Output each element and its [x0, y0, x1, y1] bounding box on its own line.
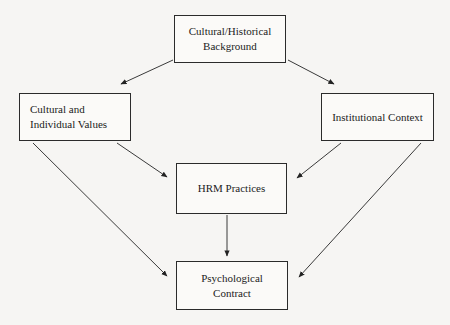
edge-background-to-institutional	[288, 60, 334, 84]
node-psychological-contract: Psychological Contract	[176, 261, 288, 310]
edge-institutional-to-contract	[299, 143, 421, 277]
edge-background-to-values	[121, 60, 173, 84]
node-label: HRM Practices	[177, 181, 286, 196]
edge-institutional-to-hrm	[297, 143, 341, 178]
flowchart-diagram: Cultural/Historical Background Cultural …	[0, 0, 450, 325]
node-label: Cultural/Historical Background	[175, 24, 285, 54]
node-label: Psychological Contract	[177, 271, 287, 301]
node-label: Cultural and Individual Values	[30, 102, 130, 132]
edge-values-to-hrm	[117, 143, 167, 177]
node-institutional-context: Institutional Context	[321, 93, 434, 141]
node-hrm-practices: HRM Practices	[176, 163, 287, 214]
node-cultural-historical-background: Cultural/Historical Background	[174, 15, 286, 63]
node-cultural-individual-values: Cultural and Individual Values	[19, 93, 131, 141]
node-label: Institutional Context	[322, 110, 433, 125]
